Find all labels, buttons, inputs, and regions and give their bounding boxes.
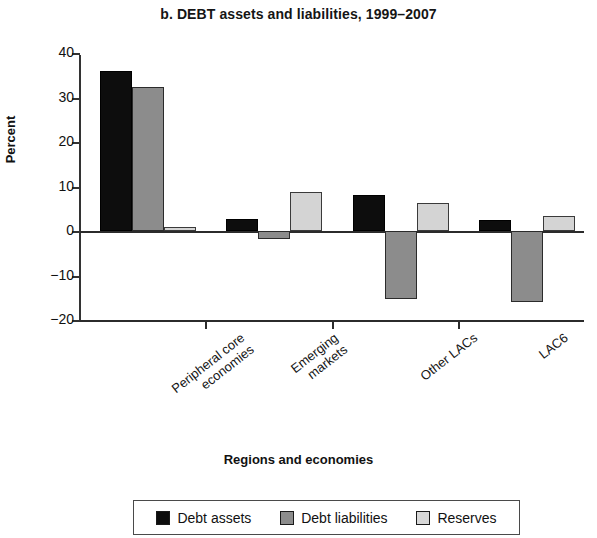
y-axis-tick-label: 20 <box>58 133 74 149</box>
bar-liabilities <box>385 231 417 299</box>
y-axis-tick-label: −20 <box>50 311 74 327</box>
y-axis-tick-label: 0 <box>66 222 74 238</box>
legend-label: Reserves <box>437 510 496 526</box>
x-axis-title: Regions and economies <box>0 452 597 467</box>
zero-baseline <box>79 231 584 233</box>
y-axis-line <box>79 55 81 322</box>
y-axis-tick-label: 40 <box>58 44 74 60</box>
legend-swatch-assets <box>156 511 170 525</box>
x-axis-tick-mark <box>458 320 460 329</box>
legend-swatch-liabilities <box>280 511 294 525</box>
x-axis-category-label: Peripheral coreeconomies <box>169 330 257 408</box>
bar-assets <box>353 195 385 231</box>
legend-item: Debt assets <box>156 510 251 526</box>
y-axis-tick-label: −10 <box>50 267 74 283</box>
plot-area: 403020100−10−20 <box>79 55 584 322</box>
bar-reserves <box>417 203 449 231</box>
bar-assets <box>479 220 511 231</box>
x-axis-category-label: LAC6 <box>536 330 571 362</box>
bar-liabilities <box>511 231 543 302</box>
bar-liabilities <box>132 87 164 231</box>
bar-reserves <box>164 227 196 231</box>
x-axis-category-label-line: Other LACs <box>417 330 480 384</box>
bar-liabilities <box>258 231 290 239</box>
y-axis-title: Percent <box>3 80 18 200</box>
x-axis-category-label: Emergingmarkets <box>288 330 350 388</box>
y-axis-tick-label: 10 <box>58 178 74 194</box>
bar-assets <box>226 219 258 231</box>
legend-item: Reserves <box>416 510 496 526</box>
legend-label: Debt assets <box>177 510 251 526</box>
x-axis-category-label-line: LAC6 <box>536 330 571 362</box>
legend-label: Debt liabilities <box>301 510 387 526</box>
x-axis-category-label: Other LACs <box>417 330 480 384</box>
chart-title: b. DEBT assets and liabilities, 1999–200… <box>0 6 597 22</box>
legend-item: Debt liabilities <box>280 510 387 526</box>
x-axis-tick-mark <box>332 320 334 329</box>
legend-swatch-reserves <box>416 511 430 525</box>
x-axis-tick-mark <box>205 320 207 329</box>
bar-reserves <box>543 216 575 231</box>
bar-reserves <box>290 192 322 231</box>
y-axis-tick-label: 30 <box>58 89 74 105</box>
bar-assets <box>100 71 132 231</box>
chart-legend: Debt assetsDebt liabilitiesReserves <box>133 500 520 535</box>
